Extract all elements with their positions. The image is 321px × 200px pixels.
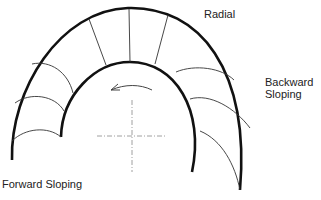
backward-label-line1: Backward: [265, 76, 313, 88]
centerline-crosshair-icon: [97, 100, 167, 172]
radial-blades: [89, 9, 168, 65]
impeller-diagram: [0, 0, 321, 200]
inner-arc: [61, 62, 195, 172]
counterclockwise-arrow-icon: [111, 84, 152, 90]
backward-sloping-label: Backward Sloping: [265, 76, 313, 100]
outer-arc: [12, 8, 241, 190]
radial-label: Radial: [204, 8, 235, 20]
backward-label-line2: Sloping: [265, 88, 313, 100]
forward-sloping-label: Forward Sloping: [2, 178, 82, 190]
